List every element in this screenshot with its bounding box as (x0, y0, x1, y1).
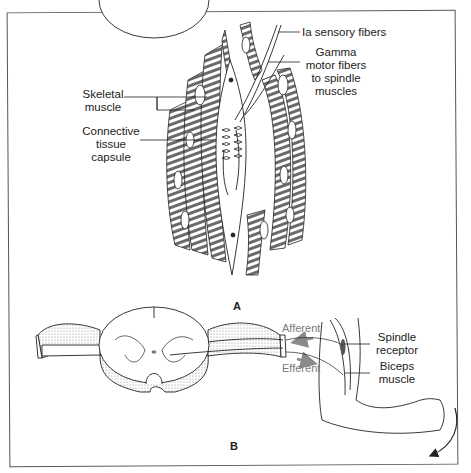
figure-artwork (0, 0, 471, 473)
connective-tissue-capsule-label: Connective tissue capsule (80, 125, 142, 164)
gamma-motor-line-3: to spindle (300, 72, 372, 85)
afferent-label: Afferent (282, 322, 320, 335)
spindle-receptor-line-1: Spindle (370, 331, 424, 344)
skeletal-muscle-label: Skeletal muscle (80, 88, 126, 114)
capsule-line-1: Connective (80, 125, 142, 138)
capsule-line-3: capsule (80, 151, 142, 164)
gamma-motor-line-1: Gamma (300, 46, 372, 59)
skeletal-muscle-line-1: Skeletal (80, 88, 126, 101)
capsule-line-2: tissue (80, 138, 142, 151)
skeletal-muscle-line-2: muscle (80, 101, 126, 114)
biceps-muscle-line-2: muscle (370, 373, 424, 386)
biceps-muscle-label: Biceps muscle (370, 360, 424, 386)
gamma-motor-fibers-label: Gamma motor fibers to spindle muscles (300, 46, 372, 98)
panel-label-a: A (233, 300, 241, 312)
ia-sensory-fibers-label: Ia sensory fibers (302, 26, 386, 39)
efferent-label: Efferent (282, 362, 320, 375)
spindle-receptor-line-2: receptor (370, 344, 424, 357)
reflex-pathway-arrows (295, 338, 313, 363)
spindle-receptor-label: Spindle receptor (370, 331, 424, 357)
gamma-motor-line-2: motor fibers (300, 59, 372, 72)
gamma-motor-line-4: muscles (300, 85, 372, 98)
panel-label-b: B (230, 440, 238, 452)
biceps-muscle-line-1: Biceps (370, 360, 424, 373)
